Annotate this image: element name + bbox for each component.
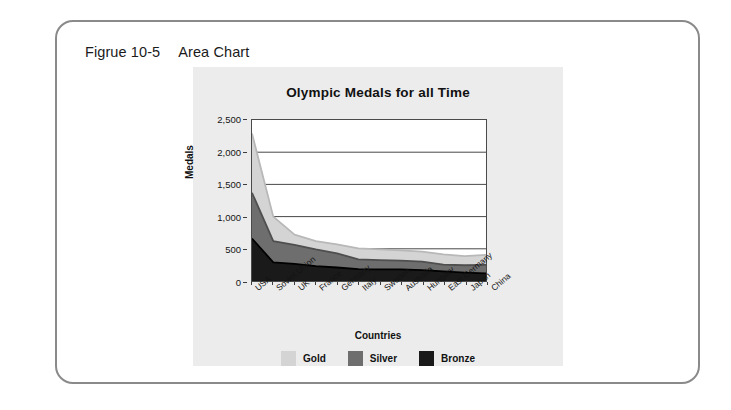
legend-swatch-bronze	[419, 351, 434, 366]
chart-title: Olympic Medals for all Time	[193, 85, 563, 100]
figure-caption-number: Figrue 10-5	[85, 44, 160, 60]
legend-swatch-gold	[281, 351, 296, 366]
figure-caption: Figrue 10-5Area Chart	[85, 44, 249, 60]
y-tick-label: 2,000	[217, 146, 241, 157]
chart-panel: Olympic Medals for all Time Medals 05001…	[193, 67, 563, 366]
y-tick-mark	[243, 249, 247, 250]
y-tick-mark	[243, 119, 247, 120]
legend-item: Bronze	[419, 351, 475, 366]
legend-label: Bronze	[441, 353, 475, 364]
y-tick-mark	[243, 282, 247, 283]
area-chart-svg	[252, 120, 486, 281]
x-tick-label: China	[489, 271, 512, 293]
chart-legend: GoldSilverBronze	[193, 351, 563, 366]
y-tick-label: 500	[225, 244, 241, 255]
x-axis-title: Countries	[193, 330, 563, 341]
y-axis-tick-labels: 05001,0001,5002,0002,500	[193, 119, 247, 282]
legend-swatch-silver	[348, 351, 363, 366]
y-tick-mark	[243, 152, 247, 153]
legend-item: Silver	[348, 351, 397, 366]
y-tick-label: 2,500	[217, 114, 241, 125]
legend-item: Gold	[281, 351, 326, 366]
figure-card: Figrue 10-5Area Chart Olympic Medals for…	[55, 20, 700, 384]
y-tick-mark	[243, 184, 247, 185]
legend-label: Silver	[370, 353, 397, 364]
plot-area	[251, 119, 487, 282]
legend-label: Gold	[303, 353, 326, 364]
y-tick-label: 1,500	[217, 179, 241, 190]
x-tick-mark	[380, 282, 381, 285]
y-tick-label: 1,000	[217, 211, 241, 222]
y-tick-mark	[243, 217, 247, 218]
x-tick-mark	[423, 282, 424, 285]
x-tick-mark	[466, 282, 467, 285]
figure-caption-text: Area Chart	[178, 44, 249, 60]
y-tick-label: 0	[236, 277, 241, 288]
